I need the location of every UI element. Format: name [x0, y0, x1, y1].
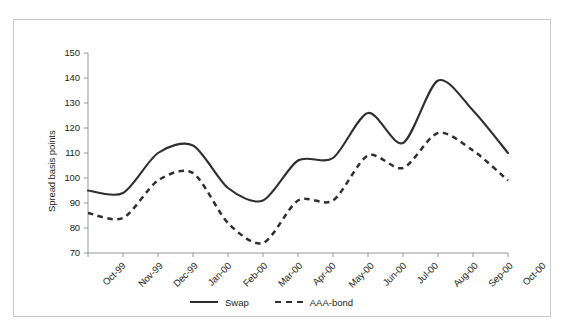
- chart-legend: Swap AAA-bond: [190, 293, 420, 311]
- legend-item-swap: Swap: [190, 297, 249, 308]
- legend-item-aaa-bond: AAA-bond: [275, 297, 353, 308]
- chart-figure: Spread basis points 15014013012011010090…: [0, 0, 566, 334]
- y-tick-label: 70: [0, 247, 80, 258]
- y-tick-label: 150: [0, 47, 80, 58]
- y-tick-label: 90: [0, 197, 80, 208]
- y-tick-label: 140: [0, 72, 80, 83]
- y-tick-label: 80: [0, 222, 80, 233]
- y-tick-label: 120: [0, 122, 80, 133]
- y-tick-label: 100: [0, 172, 80, 183]
- legend-label-swap: Swap: [225, 297, 249, 308]
- legend-label-aaa-bond: AAA-bond: [310, 297, 353, 308]
- y-tick-label: 130: [0, 97, 80, 108]
- legend-swatch-dashed-line: [275, 301, 303, 303]
- y-tick-label: 110: [0, 147, 80, 158]
- legend-swatch-solid-line: [190, 301, 218, 303]
